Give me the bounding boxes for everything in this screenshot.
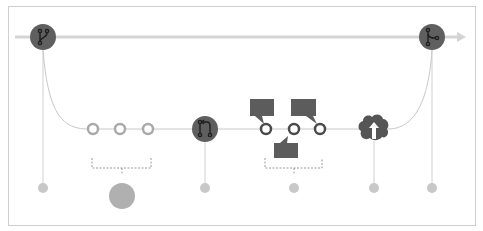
review-commits xyxy=(261,124,325,134)
branch-start-node xyxy=(30,24,56,50)
commit-ring-icon xyxy=(115,124,125,134)
step-dot-deploy xyxy=(369,183,379,193)
step-dot-merge xyxy=(427,183,437,193)
step-dot-open-pull-request xyxy=(200,183,210,193)
diagram-frame xyxy=(9,7,476,226)
step-dot-discuss-review xyxy=(289,183,299,193)
commit-ring-icon xyxy=(289,124,299,134)
merge-end-node xyxy=(419,24,445,50)
commit-ring-icon xyxy=(88,124,98,134)
step-dot-create-branch xyxy=(38,183,48,193)
commit-ring-icon xyxy=(315,124,325,134)
commit-ring-icon xyxy=(143,124,153,134)
step-dot-add-commits xyxy=(109,183,135,209)
commit-ring-icon xyxy=(261,124,271,134)
diagram-canvas xyxy=(0,0,483,231)
feature-commits xyxy=(88,124,153,134)
pull-request-node xyxy=(192,116,218,142)
git-flow-diagram xyxy=(0,0,483,231)
